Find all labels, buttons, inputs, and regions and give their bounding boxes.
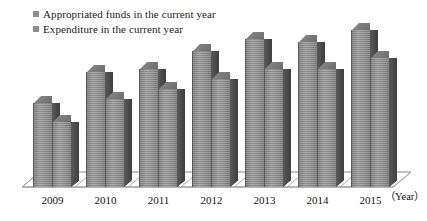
bar-front-face <box>105 99 124 187</box>
bar-front-face <box>351 30 370 187</box>
bar-side-face <box>177 89 185 187</box>
bar-front-face <box>158 89 177 187</box>
legend-item-label: Appropriated funds in the current year <box>43 8 216 20</box>
x-axis-label-2011: 2011 <box>132 194 185 206</box>
bar-2015-expenditure <box>370 58 389 187</box>
bar-front-face <box>370 58 389 187</box>
x-axis-label-2014: 2014 <box>291 194 344 206</box>
bar-front-face <box>139 69 158 187</box>
bar-side-face <box>230 79 238 187</box>
legend-item-label: Expenditure in the current year <box>43 23 183 35</box>
legend-item-appropriated: Appropriated funds in the current year <box>33 7 216 20</box>
bar-front-face <box>86 72 105 187</box>
chart-legend: Appropriated funds in the current year E… <box>33 7 216 37</box>
x-axis-label-2010: 2010 <box>79 194 132 206</box>
bar-2010-appropriated <box>86 72 105 187</box>
bar-2013-appropriated <box>245 39 264 187</box>
x-axis-label-2009: 2009 <box>26 194 79 206</box>
bar-2013-expenditure <box>264 69 283 187</box>
bar-2011-expenditure <box>158 89 177 187</box>
square-swatch-icon <box>33 26 39 32</box>
bar-2014-appropriated <box>298 42 317 187</box>
bar-2010-expenditure <box>105 99 124 187</box>
bar-front-face <box>245 39 264 187</box>
x-axis-label-2013: 2013 <box>238 194 291 206</box>
square-swatch-icon <box>33 11 39 17</box>
bar-side-face <box>71 122 79 187</box>
bar-2009-appropriated <box>33 103 52 187</box>
bar-side-face <box>336 69 344 187</box>
bar-front-face <box>264 69 283 187</box>
x-axis-label-2012: 2012 <box>185 194 238 206</box>
bar-side-face <box>283 69 291 187</box>
bar-front-face <box>192 51 211 187</box>
legend-item-expenditure: Expenditure in the current year <box>33 22 216 35</box>
bar-chart: Appropriated funds in the current year E… <box>0 0 427 221</box>
bar-front-face <box>211 79 230 187</box>
bar-front-face <box>33 103 52 187</box>
bar-2009-expenditure <box>52 122 71 187</box>
bar-front-face <box>52 122 71 187</box>
bar-side-face <box>124 99 132 187</box>
bar-front-face <box>298 42 317 187</box>
bar-2012-expenditure <box>211 79 230 187</box>
bar-2015-appropriated <box>351 30 370 187</box>
bar-front-face <box>317 69 336 187</box>
bar-2014-expenditure <box>317 69 336 187</box>
bar-2011-appropriated <box>139 69 158 187</box>
bar-side-face <box>389 58 397 187</box>
bar-2012-appropriated <box>192 51 211 187</box>
x-axis-unit-label: （Year） <box>385 191 424 203</box>
